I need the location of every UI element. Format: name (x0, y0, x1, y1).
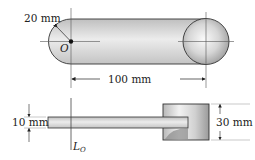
height-label: 30 mm (216, 116, 253, 128)
top-view: 20 mm O 100 mm (24, 8, 234, 88)
center-label: O (60, 42, 69, 54)
diagram-canvas: 20 mm O 100 mm LO 10 mm 30 mm (0, 0, 255, 160)
thickness-label: 10 mm (12, 116, 49, 128)
length-label: 100 mm (108, 73, 151, 85)
side-view: LO 10 mm 30 mm (12, 98, 253, 154)
radius-label: 20 mm (24, 12, 61, 24)
rod-side (48, 117, 188, 128)
axis-lo-label: LO (72, 140, 86, 154)
